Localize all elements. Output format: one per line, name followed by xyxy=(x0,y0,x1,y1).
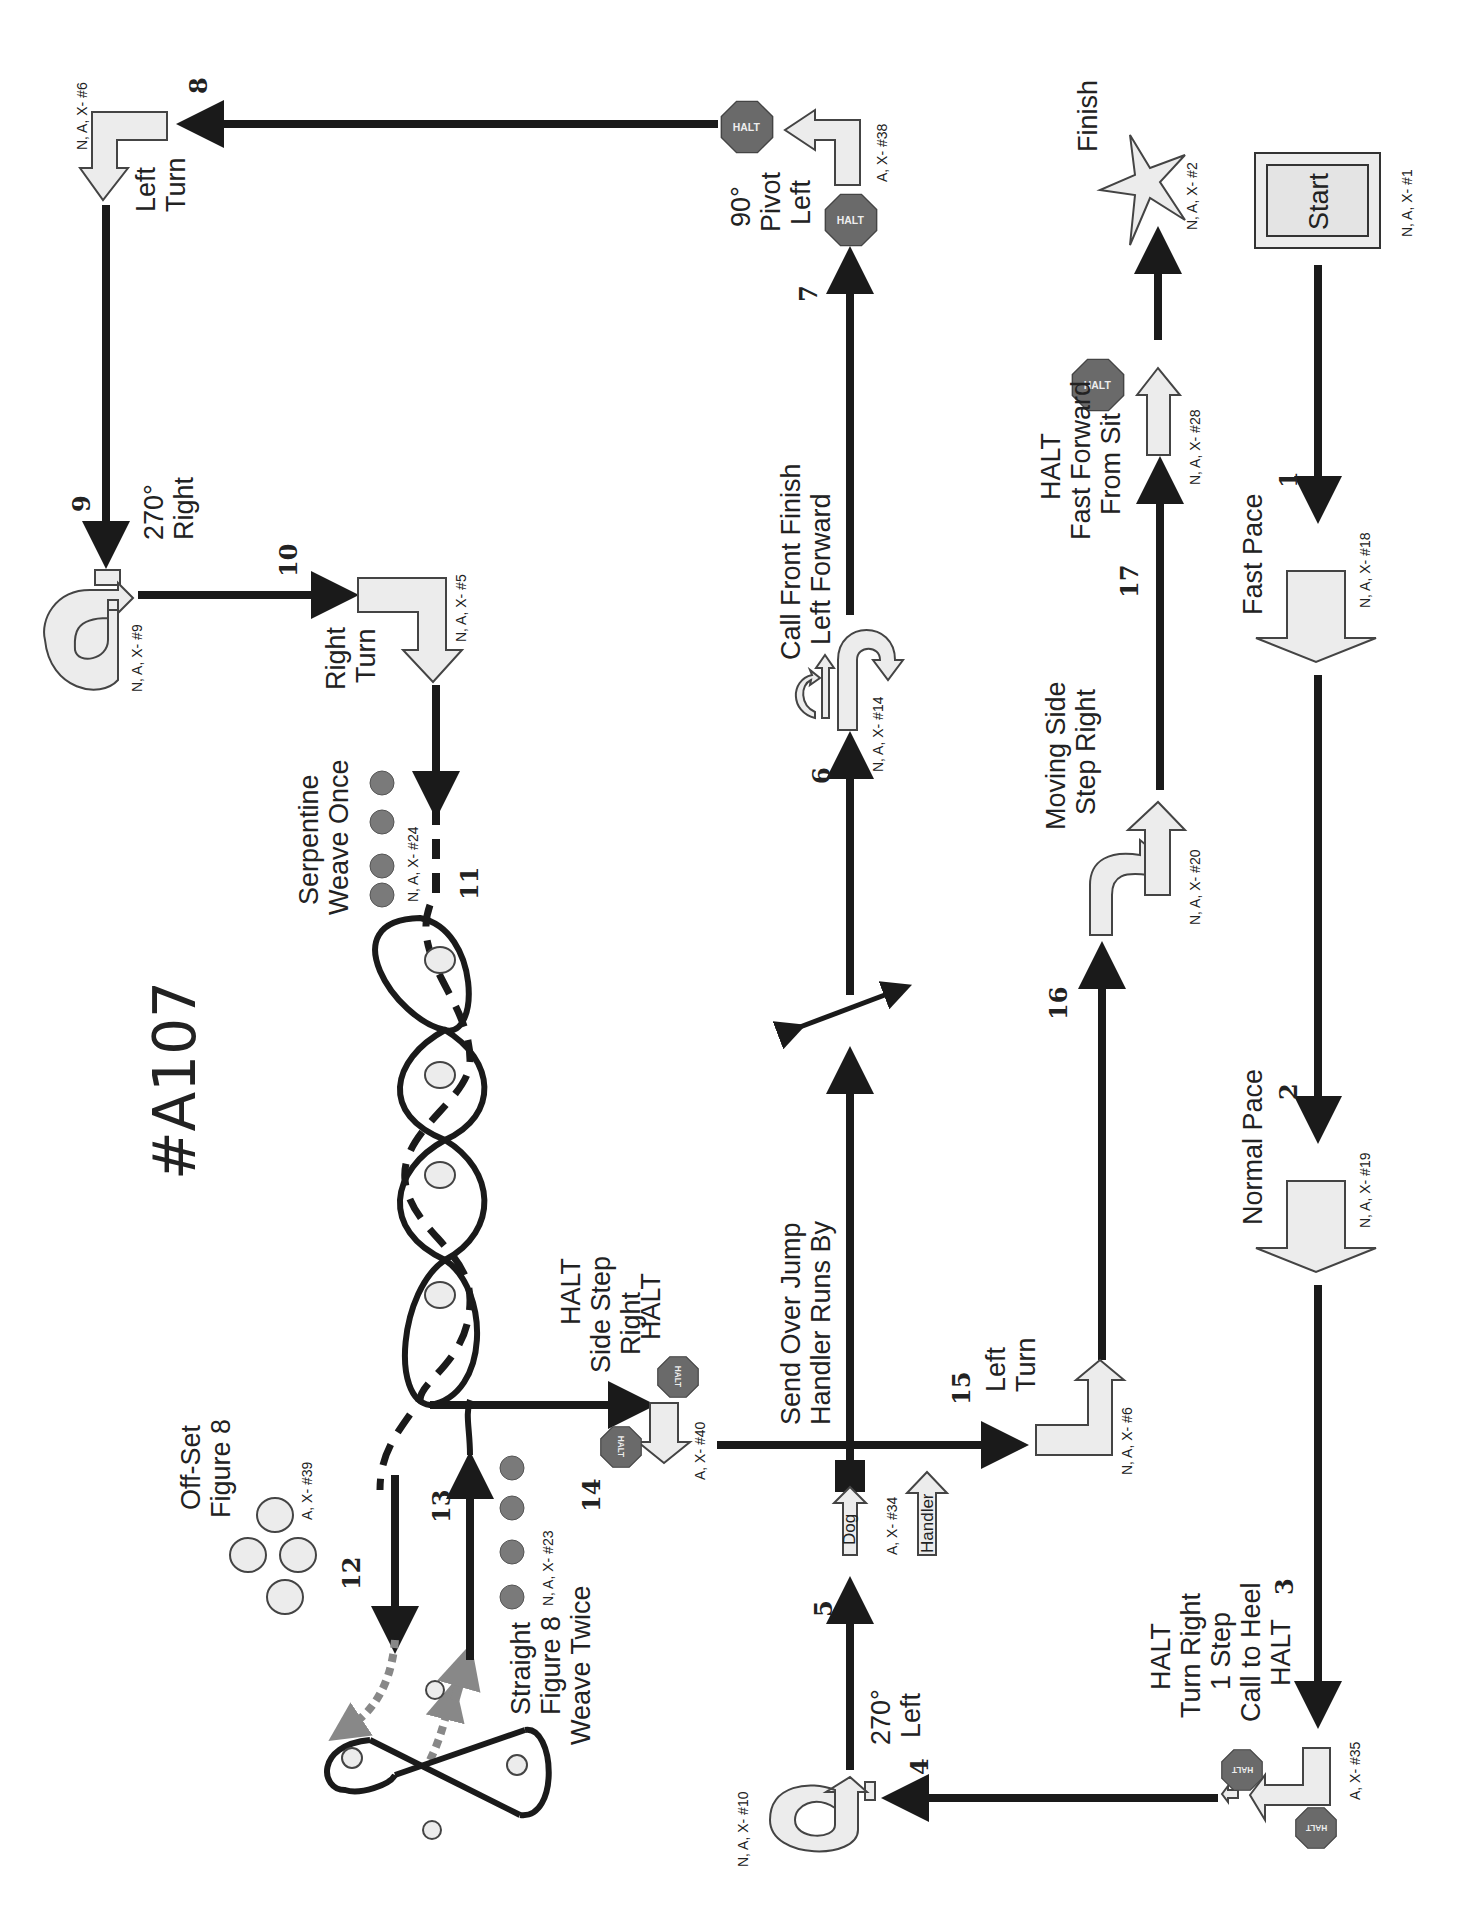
station-14-code: A, X- #40 xyxy=(692,1421,708,1480)
fig8-gray-dashed-out xyxy=(430,1700,450,1760)
station-11-code: N, A, X- #24 xyxy=(405,826,421,902)
path-13-to-loops xyxy=(468,1400,470,1455)
station-num-16: 16 xyxy=(1044,987,1073,1020)
station-16-label-2: Step Right xyxy=(1071,688,1101,815)
station-num-12: 12 xyxy=(337,1557,366,1590)
station-6-label-1: Call Front Finish xyxy=(776,463,806,660)
station-num-4: 4 xyxy=(905,1758,934,1775)
station-num-2: 2 xyxy=(1274,1083,1303,1100)
fig8-cone-right xyxy=(507,1755,527,1775)
station-17-code: N, A, X- #28 xyxy=(1187,409,1203,485)
station-9-code: N, A, X- #9 xyxy=(129,624,145,692)
station-13-label-3: Weave Twice xyxy=(566,1585,596,1745)
halt-sign-icon: HALT xyxy=(1222,1750,1263,1791)
station-16-code: N, A, X- #20 xyxy=(1187,849,1203,925)
svg-text:Dog: Dog xyxy=(840,1514,859,1545)
halt-sign-icon: HALT xyxy=(1296,1808,1337,1849)
station-num-15: 15 xyxy=(947,1372,976,1405)
station-7-label-2: Pivot xyxy=(756,171,786,232)
station-num-10: 10 xyxy=(274,544,303,577)
course-title: #A107 xyxy=(141,981,209,1180)
jump-diagonal-arrow xyxy=(792,990,898,1030)
finish-star-icon xyxy=(1100,135,1185,245)
station-3-code: A, X- #35 xyxy=(1347,1741,1363,1800)
station-5-label-1: Send Over Jump xyxy=(776,1222,806,1425)
left-turn-sign-15 xyxy=(1036,1360,1124,1455)
finish-code: N, A, X- #2 xyxy=(1184,162,1200,230)
pivot-left-sign xyxy=(785,110,860,185)
moving-side-step-sign xyxy=(1090,802,1185,935)
serpentine-sign-cones xyxy=(370,771,394,907)
station-num-6: 6 xyxy=(807,767,836,784)
svg-text:1 Step: 1 Step xyxy=(1206,1612,1236,1690)
svg-text:HALT: HALT xyxy=(1232,1765,1253,1774)
station-15-label-1: Left xyxy=(981,1346,1011,1392)
dog-arrow-sign: Dog xyxy=(834,1487,866,1555)
halt-sign-icon: HALT xyxy=(601,1427,642,1468)
station-17-label-3: From Sit xyxy=(1096,413,1126,516)
station-8-label-2: Turn xyxy=(161,157,191,212)
fast-forward-sign xyxy=(1137,368,1180,455)
side-step-right-sign xyxy=(638,1403,690,1463)
station-3-label: HALT Turn Right 1 Step Call to Heel HALT xyxy=(1146,1582,1296,1722)
station-4-code: N, A, X- #10 xyxy=(735,1791,751,1867)
station-7-label-3: Left xyxy=(786,179,816,225)
weave-twice-sign-cones xyxy=(500,1456,524,1609)
handler-arrow-sign: Handler xyxy=(907,1472,947,1555)
station-4-label-1: 270° xyxy=(866,1689,896,1745)
station-7-code: A, X- #38 xyxy=(874,123,890,182)
station-10-label-1: Right xyxy=(321,626,351,690)
svg-text:Turn Right: Turn Right xyxy=(1176,1592,1206,1718)
fast-pace-code: N, A, X- #18 xyxy=(1357,532,1373,608)
station-14-label-1: HALT xyxy=(556,1258,586,1325)
halt-sign-icon: HALT xyxy=(825,194,876,245)
station-9-label-1: 270° xyxy=(139,484,169,540)
station-12-label-2: Figure 8 xyxy=(206,1419,236,1518)
station-num-9: 9 xyxy=(67,495,96,512)
station-num-5: 5 xyxy=(809,1600,838,1617)
finish-label: Finish xyxy=(1073,80,1103,152)
270-right-sign xyxy=(44,570,133,690)
station-num-13: 13 xyxy=(427,1490,456,1523)
station-12-code: A, X- #39 xyxy=(299,1461,315,1520)
station-4-label-2: Left xyxy=(896,1692,926,1738)
station-num-11: 11 xyxy=(455,867,484,900)
station-num-8: 8 xyxy=(184,77,213,94)
start-sign: Start xyxy=(1255,153,1380,248)
normal-pace-code: N, A, X- #19 xyxy=(1357,1152,1373,1228)
station-13-label-1: Straight xyxy=(506,1621,536,1715)
fig8-gray-arrow xyxy=(455,1665,465,1700)
station-15-code: N, A, X- #6 xyxy=(1119,1407,1135,1475)
station-10-label-2: Turn xyxy=(351,628,381,683)
station-8-label-1: Left xyxy=(131,166,161,212)
svg-text:HALT: HALT xyxy=(1306,1823,1327,1832)
fig8-gray-dashed-in xyxy=(345,1640,395,1730)
station-16-label-1: Moving Side xyxy=(1041,681,1071,830)
svg-text:HALT: HALT xyxy=(1146,1623,1176,1690)
fast-pace-label: Fast Pace xyxy=(1238,493,1268,615)
station-12-label-1: Off-Set xyxy=(176,1424,206,1510)
fig8-cone-bottom xyxy=(423,1821,441,1839)
station-13-code: N, A, X- #23 xyxy=(540,1530,556,1606)
station-num-14: 14 xyxy=(577,1479,606,1512)
station-6-code: N, A, X- #14 xyxy=(870,696,886,772)
start-code: N, A, X- #1 xyxy=(1399,169,1415,237)
halt-sign-icon: HALT xyxy=(721,101,772,152)
svg-text:HALT: HALT xyxy=(1266,1619,1296,1686)
svg-text:Call to Heel: Call to Heel xyxy=(1236,1582,1266,1722)
station-11-label-2: Weave Once xyxy=(324,759,354,915)
fig8-cone-top xyxy=(426,1681,444,1699)
station-num-1: 1 xyxy=(1274,471,1303,488)
rally-course-diagram: #A107 xyxy=(0,0,1464,1931)
station-7-label-1: 90° xyxy=(726,186,756,227)
station-6-label-2: Left Forward xyxy=(806,493,836,645)
station-14-label-4: HALT xyxy=(636,1273,666,1340)
fig8-cone-left xyxy=(342,1748,362,1768)
svg-text:HALT: HALT xyxy=(837,215,865,226)
station-10-code: N, A, X- #5 xyxy=(453,574,469,642)
station-17-label-1: HALT xyxy=(1036,433,1066,500)
svg-text:Handler: Handler xyxy=(918,1493,937,1553)
station-5-code: A, X- #34 xyxy=(884,1496,900,1555)
station-14-label-2: Side Step xyxy=(586,1256,616,1373)
svg-text:HALT: HALT xyxy=(733,122,761,133)
